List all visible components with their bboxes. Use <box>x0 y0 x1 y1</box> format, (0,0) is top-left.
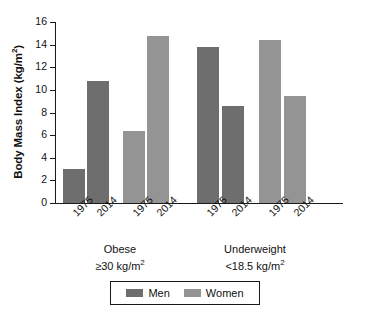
y-tick-label-12: 12 <box>35 60 47 72</box>
legend-swatch-women <box>184 289 201 297</box>
y-tick-12: 12 <box>50 67 55 68</box>
legend-swatch-men <box>126 289 143 297</box>
y-tick-6: 6 <box>50 135 55 136</box>
bar-underweight-men-1975 <box>197 47 219 203</box>
legend-label-women: Women <box>206 287 244 299</box>
y-tick-16: 16 <box>50 22 55 23</box>
legend: Men Women <box>110 281 260 305</box>
y-tick-4: 4 <box>50 158 55 159</box>
y-tick-0: 0 <box>50 203 55 204</box>
bar-obese-women-2014 <box>147 36 169 203</box>
y-tick-label-8: 8 <box>41 106 47 118</box>
bmi-bar-chart: Body Mass Index (kg/m2) 1614121086420 19… <box>0 0 369 320</box>
bar-obese-women-1975 <box>123 131 145 203</box>
bar-obese-men-2014 <box>87 81 109 203</box>
y-axis-title-text: Body Mass Index (kg/m <box>12 53 24 179</box>
y-axis-line <box>55 22 56 203</box>
group-criterion-underweight: <18.5 kg/m2 <box>185 256 325 273</box>
legend-item-men: Men <box>126 287 169 299</box>
y-tick-label-10: 10 <box>35 83 47 95</box>
y-tick-14: 14 <box>50 45 55 46</box>
y-tick-label-6: 6 <box>41 128 47 140</box>
y-tick-2: 2 <box>50 180 55 181</box>
y-axis-title: Body Mass Index (kg/m2) <box>10 32 24 192</box>
y-tick-label-2: 2 <box>41 173 47 185</box>
group-name-underweight: Underweight <box>185 243 325 256</box>
group-label-obese: Obese≥30 kg/m2 <box>50 243 190 273</box>
bar-underweight-women-1975 <box>259 40 281 203</box>
y-tick-label-16: 16 <box>35 15 47 27</box>
bar-underweight-men-2014 <box>222 106 244 203</box>
y-tick-label-4: 4 <box>41 151 47 163</box>
y-tick-label-0: 0 <box>41 196 47 208</box>
bar-underweight-women-2014 <box>284 96 306 203</box>
y-tick-label-14: 14 <box>35 38 47 50</box>
plot-area: 1614121086420 <box>55 22 335 203</box>
y-tick-10: 10 <box>50 90 55 91</box>
group-name-obese: Obese <box>50 243 190 256</box>
y-axis-title-superscript: 2 <box>10 49 19 53</box>
group-label-underweight: Underweight<18.5 kg/m2 <box>185 243 325 273</box>
legend-label-men: Men <box>148 287 169 299</box>
y-tick-8: 8 <box>50 113 55 114</box>
group-criterion-obese: ≥30 kg/m2 <box>50 256 190 273</box>
legend-item-women: Women <box>184 287 244 299</box>
y-axis-title-tail: ) <box>12 45 24 49</box>
